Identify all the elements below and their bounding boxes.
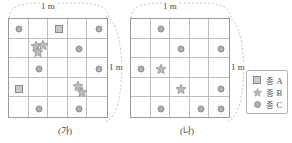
organism-mark-species-c bbox=[218, 106, 225, 113]
organism-mark-species-b bbox=[33, 47, 44, 58]
organism-mark-species-a bbox=[55, 25, 63, 33]
quadrat-cell bbox=[29, 19, 49, 39]
quadrat-cell bbox=[48, 58, 68, 78]
quadrat-cell bbox=[48, 39, 68, 59]
quadrat-cell bbox=[9, 97, 29, 117]
quadrat-cell bbox=[131, 19, 151, 39]
quadrat-cell bbox=[190, 78, 210, 98]
quadrat-cell bbox=[68, 19, 88, 39]
panel-caption-na: (나) bbox=[122, 124, 252, 137]
quadrat-cell bbox=[151, 78, 171, 98]
organism-mark-species-c bbox=[158, 106, 165, 113]
organism-mark-species-c bbox=[16, 26, 23, 33]
quadrat-cell bbox=[87, 97, 107, 117]
quadrat-cell bbox=[209, 19, 229, 39]
top-dimension-brace-na bbox=[128, 0, 234, 20]
circle-icon bbox=[251, 99, 263, 109]
figure-root: 1 m 1 m (가) 1 m 1 m (나) bbox=[0, 0, 292, 143]
quadrat-cell bbox=[170, 97, 190, 117]
quadrat-cell bbox=[190, 58, 210, 78]
quadrat-panel-na: 1 m 1 m (나) bbox=[122, 0, 252, 143]
quadrat-cell bbox=[87, 78, 107, 98]
organism-mark-species-c bbox=[96, 26, 103, 33]
organism-mark-species-b bbox=[77, 87, 88, 98]
quadrat-cell bbox=[9, 39, 29, 59]
quadrat-cell bbox=[29, 78, 49, 98]
quadrat-cell bbox=[209, 58, 229, 78]
organism-mark-species-b bbox=[176, 84, 187, 95]
top-dimension-brace-ga bbox=[6, 0, 112, 20]
organism-mark-species-c bbox=[76, 106, 83, 113]
legend-item-species-b: 종 B bbox=[251, 86, 287, 98]
panel-caption-ga: (가) bbox=[0, 124, 130, 137]
quadrat-cell bbox=[151, 39, 171, 59]
organism-mark-species-b bbox=[156, 64, 167, 75]
organism-mark-species-c bbox=[138, 66, 145, 73]
organism-mark-species-c bbox=[76, 46, 83, 53]
quadrat-cell bbox=[131, 78, 151, 98]
quadrat-cell bbox=[190, 19, 210, 39]
quadrat-grid-na bbox=[130, 18, 230, 118]
legend-label-species-c: 종 C bbox=[266, 98, 282, 110]
quadrat-panel-ga: 1 m 1 m (가) bbox=[0, 0, 130, 143]
quadrat-cell bbox=[190, 39, 210, 59]
legend-label-species-a: 종 A bbox=[266, 74, 283, 86]
organism-mark-species-c bbox=[198, 106, 205, 113]
quadrat-cell bbox=[131, 97, 151, 117]
organism-mark-species-c bbox=[36, 66, 43, 73]
star-icon bbox=[251, 87, 263, 97]
quadrat-grid-ga bbox=[8, 18, 108, 118]
organism-mark-species-c bbox=[218, 86, 225, 93]
organism-mark-species-c bbox=[96, 66, 103, 73]
legend: 종 A 종 B 종 C bbox=[246, 70, 288, 114]
quadrat-cell bbox=[170, 19, 190, 39]
legend-label-species-b: 종 B bbox=[266, 86, 282, 98]
quadrat-cell bbox=[48, 78, 68, 98]
organism-mark-species-c bbox=[158, 26, 165, 33]
side-dimension-label-na: 1 m bbox=[230, 62, 246, 72]
organism-mark-species-c bbox=[36, 106, 43, 113]
quadrat-cell bbox=[68, 58, 88, 78]
top-dimension-label-na: 1 m bbox=[162, 1, 178, 11]
legend-item-species-c: 종 C bbox=[251, 98, 287, 110]
quadrat-cell bbox=[87, 39, 107, 59]
quadrat-cell bbox=[170, 58, 190, 78]
square-icon bbox=[251, 75, 263, 85]
quadrat-cell bbox=[9, 58, 29, 78]
organism-mark-species-c bbox=[178, 46, 185, 53]
organism-mark-species-a bbox=[15, 85, 23, 93]
legend-item-species-a: 종 A bbox=[251, 74, 287, 86]
quadrat-cell bbox=[48, 97, 68, 117]
top-dimension-label-ga: 1 m bbox=[40, 1, 56, 11]
quadrat-cell bbox=[131, 39, 151, 59]
organism-mark-species-c bbox=[218, 46, 225, 53]
